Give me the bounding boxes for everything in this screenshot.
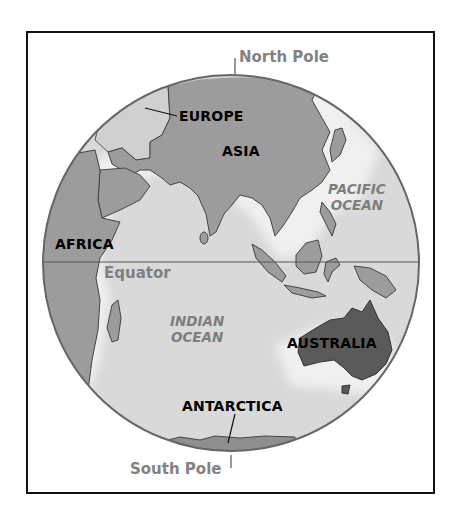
south-pole-label: South Pole [130,462,221,477]
indian-ocean-line1: INDIAN [170,313,224,329]
north-pole-label: North Pole [239,50,329,65]
pacific-ocean-line2: OCEAN [328,197,386,213]
tasmania-island [342,385,350,394]
europe-label: EUROPE [179,109,244,123]
globe-map [0,0,467,522]
indian-ocean-line2: OCEAN [170,329,224,345]
indian-ocean-label: INDIAN OCEAN [170,313,224,345]
australia-label: AUSTRALIA [287,336,377,350]
africa-label: AFRICA [55,237,114,251]
pacific-ocean-label: PACIFIC OCEAN [328,181,386,213]
pacific-ocean-line1: PACIFIC [328,181,386,197]
equator-label: Equator [104,266,171,281]
asia-label: ASIA [222,144,260,158]
antarctica-label: ANTARCTICA [182,399,283,413]
sri-lanka-island [200,232,208,244]
